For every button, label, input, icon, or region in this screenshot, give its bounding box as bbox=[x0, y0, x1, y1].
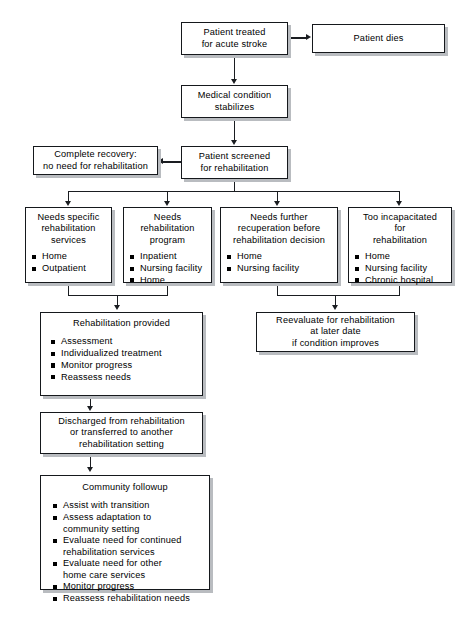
edge-medical-to-screened-arrowhead bbox=[231, 140, 237, 145]
node-medical-condition-title: Medical condition stabilizes bbox=[198, 90, 272, 113]
node-needs-specific[interactable]: Needs specific rehabilitation services H… bbox=[25, 207, 112, 283]
list-item: Reassess rehabilitation needs bbox=[53, 593, 201, 604]
node-needs-program[interactable]: Needs rehabilitation program Inpatient N… bbox=[123, 207, 212, 283]
list-item: Home bbox=[130, 275, 205, 286]
edge-treated-to-dies bbox=[288, 37, 307, 38]
edge-bus-to-needs-recuperation-arrowhead bbox=[274, 201, 280, 206]
node-rehabilitation-provided[interactable]: Rehabilitation provided Assessment Indiv… bbox=[40, 312, 203, 396]
node-patient-screened[interactable]: Patient screened for rehabilitation bbox=[181, 146, 288, 179]
list-item: Evaluate need for other home care servic… bbox=[53, 558, 201, 581]
edge-treated-to-medical bbox=[234, 54, 235, 80]
list-item: Nursing facility bbox=[355, 263, 445, 274]
edge-screened-to-recovery-arrowhead bbox=[158, 158, 163, 164]
node-needs-recuperation[interactable]: Needs further recuperation before rehabi… bbox=[220, 207, 338, 283]
list-item: Assess adaptation to community setting bbox=[53, 512, 201, 535]
list-item: Individualized treatment bbox=[51, 348, 194, 359]
fanout-bus-top bbox=[68, 191, 400, 192]
edge-needs-specific-down bbox=[68, 282, 69, 295]
list-item: Outpatient bbox=[32, 263, 105, 274]
node-complete-recovery[interactable]: Complete recovery: no need for rehabilit… bbox=[33, 146, 158, 175]
node-needs-specific-title: Needs specific rehabilitation services bbox=[32, 212, 105, 246]
node-needs-specific-items: Home Outpatient bbox=[32, 251, 105, 274]
edge-screened-to-recovery bbox=[163, 161, 183, 162]
node-too-incapacitated-title: Too incapacitated for rehabilitation bbox=[355, 212, 445, 246]
node-rehabilitation-provided-title: Rehabilitation provided bbox=[49, 318, 194, 329]
list-item: Evaluate need for continued rehabilitati… bbox=[53, 535, 201, 558]
list-item: Home bbox=[355, 251, 445, 262]
node-patient-treated-title: Patient treated for acute stroke bbox=[202, 27, 268, 50]
edge-needs-recuperation-down bbox=[277, 282, 278, 295]
node-community-followup-items: Assist with transition Assess adaptation… bbox=[49, 500, 201, 604]
node-patient-treated[interactable]: Patient treated for acute stroke bbox=[181, 22, 288, 55]
edge-screened-to-bus bbox=[234, 178, 235, 191]
list-item: Nursing facility bbox=[130, 263, 205, 274]
node-community-followup-title: Community followup bbox=[49, 482, 201, 493]
list-item: Reassess needs bbox=[51, 372, 194, 383]
node-patient-screened-title: Patient screened for rehabilitation bbox=[199, 151, 270, 174]
edge-discharged-to-community-arrowhead bbox=[87, 467, 93, 472]
edge-medical-to-screened bbox=[234, 117, 235, 141]
node-too-incapacitated-items: Home Nursing facility Chronic hospital bbox=[355, 251, 445, 286]
edge-treated-to-medical-arrowhead bbox=[231, 79, 237, 84]
node-needs-recuperation-title: Needs further recuperation before rehabi… bbox=[227, 212, 331, 246]
node-reevaluate-title: Reevaluate for rehabilitation at later d… bbox=[276, 315, 395, 349]
edge-treated-to-dies-arrowhead bbox=[306, 34, 311, 40]
list-item: Assessment bbox=[51, 336, 194, 347]
node-rehabilitation-provided-items: Assessment Individualized treatment Moni… bbox=[49, 336, 194, 383]
list-item: Nursing facility bbox=[227, 263, 331, 274]
node-discharged[interactable]: Discharged from rehabilitation or transf… bbox=[40, 412, 203, 454]
node-needs-recuperation-items: Home Nursing facility bbox=[227, 251, 331, 274]
edge-bus-to-too-incapacitated-arrowhead bbox=[396, 201, 402, 206]
list-item: Monitor progress bbox=[53, 581, 201, 592]
edge-rehab-to-discharged-arrowhead bbox=[87, 406, 93, 411]
node-medical-condition[interactable]: Medical condition stabilizes bbox=[181, 85, 288, 118]
merge-bus-right bbox=[277, 295, 400, 296]
edge-merge-to-reevaluate-arrowhead bbox=[332, 305, 338, 310]
node-discharged-title: Discharged from rehabilitation or transf… bbox=[58, 416, 185, 450]
list-item: Home bbox=[227, 251, 331, 262]
node-too-incapacitated[interactable]: Too incapacitated for rehabilitation Hom… bbox=[348, 207, 452, 283]
edge-merge-to-rehab-provided-arrowhead bbox=[114, 305, 120, 310]
list-item: Home bbox=[32, 251, 105, 262]
node-complete-recovery-title: Complete recovery: no need for rehabilit… bbox=[43, 149, 148, 172]
node-needs-program-items: Inpatient Nursing facility Home bbox=[130, 251, 205, 286]
list-item: Assist with transition bbox=[53, 500, 201, 511]
node-community-followup[interactable]: Community followup Assist with transitio… bbox=[40, 475, 210, 590]
edge-bus-to-needs-specific-arrowhead bbox=[65, 201, 71, 206]
list-item: Monitor progress bbox=[51, 360, 194, 371]
node-reevaluate[interactable]: Reevaluate for rehabilitation at later d… bbox=[256, 312, 415, 352]
list-item: Inpatient bbox=[130, 251, 205, 262]
flowchart-canvas: Patient treated for acute stroke Patient… bbox=[0, 0, 471, 619]
node-needs-program-title: Needs rehabilitation program bbox=[130, 212, 205, 246]
node-patient-dies-title: Patient dies bbox=[354, 33, 404, 44]
node-patient-dies[interactable]: Patient dies bbox=[312, 24, 445, 53]
edge-bus-to-needs-program-arrowhead bbox=[164, 201, 170, 206]
list-item: Chronic hospital bbox=[355, 275, 445, 286]
